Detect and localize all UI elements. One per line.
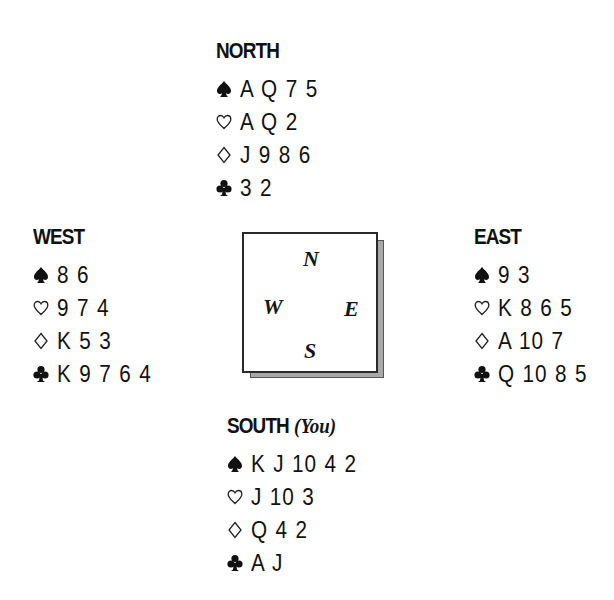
table-compass: N W E S — [242, 232, 378, 373]
south-hearts-cards: J 10 3 — [251, 484, 315, 510]
west-clubs-cards: K 9 7 6 4 — [57, 361, 152, 387]
east-title-label: EAST — [474, 224, 521, 249]
south-title-label: SOUTH — [227, 413, 289, 438]
compass-west: W — [263, 296, 283, 318]
club-icon — [33, 365, 49, 383]
east-clubs-row: Q 10 8 5 — [474, 357, 597, 390]
west-hearts-cards: 9 7 4 — [57, 295, 109, 321]
north-hearts-cards: A Q 2 — [240, 109, 298, 135]
west-diamonds-row: K 5 3 — [33, 324, 162, 357]
spade-icon — [474, 266, 490, 284]
heart-outline-icon — [227, 488, 243, 506]
north-diamonds-row: J 9 8 6 — [216, 138, 327, 171]
east-hearts-cards: K 8 6 5 — [498, 295, 573, 321]
club-icon — [216, 179, 232, 197]
south-hearts-row: J 10 3 — [227, 480, 369, 513]
west-title-label: WEST — [33, 224, 84, 249]
heart-outline-icon — [33, 299, 49, 317]
north-title-label: NORTH — [216, 38, 279, 63]
north-clubs-row: 3 2 — [216, 171, 327, 204]
east-spades-cards: 9 3 — [498, 262, 530, 288]
west-clubs-row: K 9 7 6 4 — [33, 357, 162, 390]
west-hand: WEST 8 6 9 7 4 K 5 3 K 9 7 6 4 — [33, 224, 162, 390]
heart-outline-icon — [216, 113, 232, 131]
diamond-outline-icon — [227, 521, 243, 539]
south-spades-cards: K J 10 4 2 — [251, 451, 357, 477]
east-hand: EAST 9 3 K 8 6 5 A 10 7 Q 10 8 5 — [474, 224, 597, 390]
east-diamonds-cards: A 10 7 — [498, 328, 564, 354]
diamond-outline-icon — [216, 146, 232, 164]
west-title: WEST — [33, 224, 144, 250]
east-diamonds-row: A 10 7 — [474, 324, 597, 357]
north-hearts-row: A Q 2 — [216, 105, 327, 138]
north-title: NORTH — [216, 38, 311, 64]
north-spades-cards: A Q 7 5 — [240, 76, 318, 102]
spade-icon — [227, 455, 243, 473]
spade-icon — [216, 80, 232, 98]
heart-outline-icon — [474, 299, 490, 317]
south-diamonds-cards: Q 4 2 — [251, 517, 308, 543]
diamond-outline-icon — [474, 332, 490, 350]
east-spades-row: 9 3 — [474, 258, 597, 291]
west-spades-cards: 8 6 — [57, 262, 89, 288]
compass-south: S — [304, 340, 316, 362]
south-clubs-cards: A J — [251, 550, 283, 576]
south-hand: SOUTH(You) K J 10 4 2 J 10 3 Q 4 2 A J — [227, 413, 369, 579]
south-you-note: (You) — [294, 413, 336, 438]
north-spades-row: A Q 7 5 — [216, 72, 327, 105]
south-spades-row: K J 10 4 2 — [227, 447, 369, 480]
east-clubs-cards: Q 10 8 5 — [498, 361, 587, 387]
compass-east: E — [344, 298, 359, 320]
east-hearts-row: K 8 6 5 — [474, 291, 597, 324]
east-title: EAST — [474, 224, 580, 250]
spade-icon — [33, 266, 49, 284]
club-icon — [474, 365, 490, 383]
west-diamonds-cards: K 5 3 — [57, 328, 112, 354]
club-icon — [227, 554, 243, 572]
south-diamonds-row: Q 4 2 — [227, 513, 369, 546]
south-clubs-row: A J — [227, 546, 369, 579]
north-hand: NORTH A Q 7 5 A Q 2 J 9 8 6 3 2 — [216, 38, 327, 204]
north-clubs-cards: 3 2 — [240, 175, 272, 201]
north-diamonds-cards: J 9 8 6 — [240, 142, 311, 168]
compass-north: N — [303, 248, 319, 270]
diamond-outline-icon — [33, 332, 49, 350]
west-hearts-row: 9 7 4 — [33, 291, 162, 324]
south-title: SOUTH(You) — [227, 413, 349, 439]
west-spades-row: 8 6 — [33, 258, 162, 291]
